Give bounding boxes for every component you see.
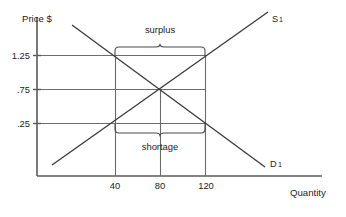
x-axis-title: Quantity (290, 187, 326, 198)
y-tick-label-025: .25 (17, 118, 30, 129)
demand-label-subscript: 1 (278, 160, 282, 169)
y-tick-label-125: 1.25 (12, 50, 30, 61)
x-tick-label-80: 80 (155, 180, 165, 191)
chart-canvas: Price $ Quantity 1.25 .75 .25 40 80 120 … (0, 0, 346, 217)
supply-label-subscript: 1 (279, 15, 283, 24)
supply-curve-label: S 1 (272, 14, 283, 24)
demand-label-text: D (270, 159, 277, 169)
x-tick-label-120: 120 (198, 180, 214, 191)
axis-group (37, 17, 322, 176)
y-axis-title: Price $ (22, 13, 53, 24)
x-tick-label-40: 40 (110, 180, 120, 191)
surplus-label: surplus (145, 24, 176, 35)
supply-label-text: S (272, 14, 278, 24)
shortage-label: shortage (142, 141, 178, 152)
supply-demand-chart: Price $ Quantity 1.25 .75 .25 40 80 120 … (0, 0, 346, 217)
quantity-reference-lines (116, 56, 206, 177)
surplus-brace (115, 44, 205, 56)
y-tick-label-075: .75 (17, 84, 30, 95)
demand-curve-label: D 1 (270, 159, 282, 169)
price-reference-lines (37, 56, 206, 124)
